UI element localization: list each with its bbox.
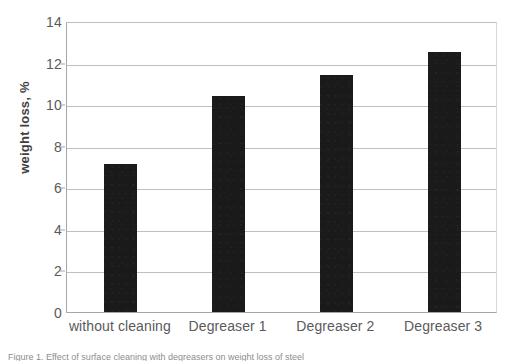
figure-caption: Figure 1. Effect of surface cleaning wit… bbox=[8, 352, 508, 361]
x-tick-label: Degreaser 3 bbox=[389, 319, 497, 334]
y-tick-label: 10 bbox=[0, 98, 62, 112]
y-tick-label: 2 bbox=[0, 264, 62, 278]
x-tick-label: Degreaser 2 bbox=[282, 319, 390, 334]
y-tick-mark bbox=[60, 229, 65, 230]
bar bbox=[428, 52, 461, 312]
x-tick-label: without cleaning bbox=[66, 319, 174, 334]
plot-area bbox=[66, 22, 497, 313]
x-axis-ticks: without cleaningDegreaser 1Degreaser 2De… bbox=[66, 319, 497, 341]
x-tick-label: Degreaser 1 bbox=[174, 319, 282, 334]
y-tick-mark bbox=[60, 105, 65, 106]
y-tick-label: 14 bbox=[0, 15, 62, 29]
y-tick-label: 12 bbox=[0, 57, 62, 71]
bar bbox=[104, 164, 137, 312]
bar bbox=[212, 96, 245, 312]
y-tick-label: 6 bbox=[0, 181, 62, 195]
y-tick-mark bbox=[60, 146, 65, 147]
y-tick-label: 8 bbox=[0, 140, 62, 154]
y-tick-mark bbox=[60, 188, 65, 189]
bar-chart-figure: weight loss, % 02468101214 without clean… bbox=[0, 0, 515, 361]
y-axis-ticks: 02468101214 bbox=[0, 0, 62, 361]
y-tick-mark bbox=[60, 271, 65, 272]
y-tick-label: 0 bbox=[0, 306, 62, 320]
y-tick-label: 4 bbox=[0, 223, 62, 237]
bar bbox=[320, 75, 353, 312]
y-tick-mark bbox=[60, 63, 65, 64]
